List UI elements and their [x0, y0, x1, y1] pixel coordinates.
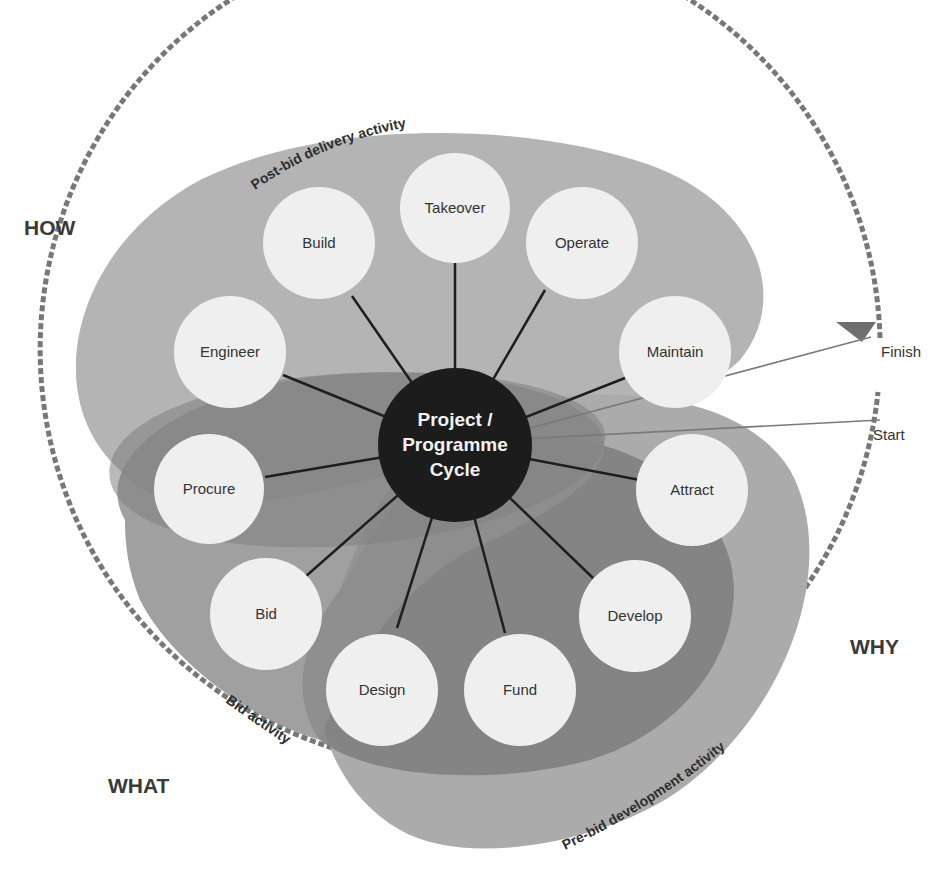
- stage-node-maintain[interactable]: Maintain: [619, 296, 731, 408]
- stage-label: Build: [302, 234, 335, 251]
- stage-node-takeover[interactable]: Takeover: [400, 153, 510, 263]
- stage-node-procure[interactable]: Procure: [154, 434, 264, 544]
- stage-label: Maintain: [647, 343, 704, 360]
- stage-node-fund[interactable]: Fund: [464, 634, 576, 746]
- hub-label-line1: Project /: [418, 409, 494, 430]
- stage-node-build[interactable]: Build: [263, 187, 375, 299]
- finish-label: Finish: [881, 343, 921, 360]
- finish-arrow-icon: [836, 322, 876, 342]
- stage-node-design[interactable]: Design: [326, 634, 438, 746]
- quadrant-how-label: HOW: [24, 216, 76, 239]
- start-label: Start: [873, 426, 906, 443]
- stage-label: Bid: [255, 605, 277, 622]
- stage-label: Procure: [183, 480, 236, 497]
- stage-node-engineer[interactable]: Engineer: [174, 296, 286, 408]
- hub-label-line2: Programme: [402, 434, 508, 455]
- project-cycle-diagram: Takeover Operate Maintain Attract Develo…: [0, 0, 945, 893]
- stage-label: Develop: [607, 607, 662, 624]
- quadrant-why-label: WHY: [850, 635, 899, 658]
- hub-label-line3: Cycle: [430, 459, 481, 480]
- stage-node-attract[interactable]: Attract: [636, 434, 748, 546]
- stage-label: Attract: [670, 481, 714, 498]
- quadrant-what-label: WHAT: [108, 774, 170, 797]
- stage-label: Fund: [503, 681, 537, 698]
- stage-label: Takeover: [425, 199, 486, 216]
- stage-node-develop[interactable]: Develop: [579, 560, 691, 672]
- stage-label: Engineer: [200, 343, 260, 360]
- hub-node[interactable]: Project / Programme Cycle: [378, 368, 532, 522]
- stage-node-operate[interactable]: Operate: [526, 187, 638, 299]
- stage-node-bid[interactable]: Bid: [210, 558, 322, 670]
- stage-label: Operate: [555, 234, 609, 251]
- stage-label: Design: [359, 681, 406, 698]
